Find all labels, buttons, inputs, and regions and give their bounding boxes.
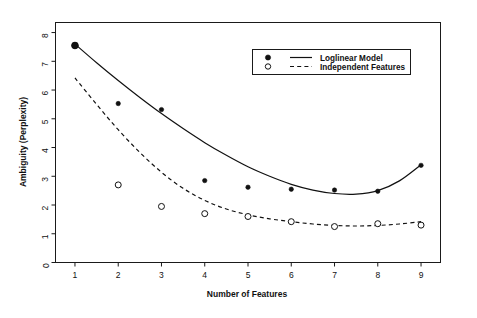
y-tick-label: 6 [41,90,51,95]
data-point [158,203,164,209]
x-tick-label: 2 [116,270,121,280]
data-point [72,42,79,49]
data-point [116,101,120,105]
legend: Loglinear Model Independent Features [253,50,411,75]
data-point [246,185,250,189]
x-tick-label: 4 [202,270,207,280]
data-point [159,107,163,111]
x-tick-label: 3 [159,270,164,280]
y-axis-title: Ambiguity (Perplexity) [18,97,28,187]
legend-marker-filled-circle-icon [265,55,270,60]
chart-figure: 012345678 123456789 Number of Features A… [0,0,477,318]
y-tick-label: 8 [41,33,51,38]
data-point [245,214,251,220]
data-point [332,188,336,192]
y-tick-label: 1 [41,234,51,239]
legend-marker-open-circle-icon [265,64,270,69]
x-tick-label: 7 [332,270,337,280]
x-axis-title: Number of Features [207,289,288,299]
data-point [202,211,208,217]
data-point [115,182,121,188]
y-tick-label: 3 [41,177,51,182]
y-tick-label: 5 [41,119,51,124]
y-tick-label: 2 [41,205,51,210]
x-tick-label: 8 [375,270,380,280]
legend-label-loglinear-model: Loglinear Model [320,54,383,63]
scatter-plot: 012345678 123456789 Number of Features A… [0,0,477,318]
data-point [376,189,380,193]
data-point [289,187,293,191]
legend-label-independent-features: Independent Features [320,63,406,72]
data-point [203,178,207,182]
data-point [375,221,381,227]
data-point [418,222,424,228]
y-tick-label: 7 [41,62,51,67]
data-point [419,163,423,167]
x-tick-label: 5 [246,270,251,280]
data-point [332,224,338,230]
x-tick-label: 6 [289,270,294,280]
x-tick-label: 1 [73,270,78,280]
x-tick-label: 9 [419,270,424,280]
data-point [288,219,294,225]
figure-background [0,0,477,318]
y-tick-label: 0 [41,263,51,268]
y-tick-label: 4 [41,148,51,153]
